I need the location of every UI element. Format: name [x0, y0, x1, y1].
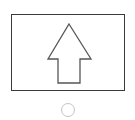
upload-arrow-icon — [0, 0, 135, 120]
radio-circle-icon[interactable] — [61, 103, 75, 117]
